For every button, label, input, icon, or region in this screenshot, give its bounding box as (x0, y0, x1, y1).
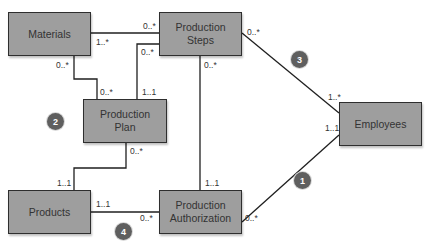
entity-employees[interactable]: Employees (339, 102, 422, 146)
multiplicity-label: 0..* (130, 147, 143, 156)
entity-production-steps[interactable]: Production Steps (159, 12, 242, 56)
entity-label-line1: Production (175, 21, 225, 34)
multiplicity-label: 0..* (141, 48, 154, 57)
entity-label-line2: Steps (187, 34, 214, 47)
multiplicity-label: 1..* (328, 93, 341, 102)
multiplicity-label: 0..* (140, 214, 153, 223)
multiplicity-label: 1..* (96, 38, 109, 47)
badge-2: 2 (47, 113, 64, 130)
entity-production-plan[interactable]: Production Plan (83, 99, 167, 143)
entity-label-line2: Authorization (170, 212, 231, 225)
entity-products[interactable]: Products (8, 190, 91, 234)
entity-label-line1: Production (100, 108, 150, 121)
multiplicity-label: 1..1 (325, 124, 339, 133)
multiplicity-label: 0..* (247, 28, 260, 37)
entity-label: Products (29, 206, 70, 219)
multiplicity-label: 1..1 (96, 200, 110, 209)
badge-3: 3 (291, 51, 308, 68)
entity-label-line1: Production (175, 199, 225, 212)
multiplicity-label: 0..* (245, 214, 258, 223)
multiplicity-label: 1..1 (205, 179, 219, 188)
multiplicity-label: 0..* (56, 61, 69, 70)
association-plan-products (74, 142, 126, 190)
entity-production-authorization[interactable]: Production Authorization (159, 190, 242, 234)
multiplicity-label: 0..* (143, 22, 156, 31)
association-authorization-employees (242, 135, 339, 222)
entity-materials[interactable]: Materials (8, 12, 91, 56)
badge-1: 1 (294, 172, 311, 189)
multiplicity-label: 1..1 (142, 88, 156, 97)
multiplicity-label: 0..* (100, 88, 113, 97)
association-materials-plan (74, 56, 97, 99)
entity-label: Employees (355, 118, 407, 131)
entity-label-line2: Plan (114, 121, 135, 134)
multiplicity-label: 0..* (204, 61, 217, 70)
multiplicity-label: 1..1 (57, 179, 71, 188)
entity-label: Materials (28, 28, 71, 41)
association-steps-employees (242, 33, 339, 113)
badge-4: 4 (115, 223, 132, 240)
